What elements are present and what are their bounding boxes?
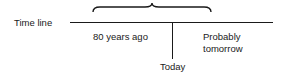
- future-label-line1: Probably: [203, 31, 241, 43]
- future-label-line2: tomorrow: [203, 43, 243, 55]
- timeline-label: Time line: [14, 17, 52, 29]
- past-label: 80 years ago: [93, 31, 148, 43]
- curly-brace: [93, 3, 211, 12]
- today-label: Today: [160, 61, 185, 73]
